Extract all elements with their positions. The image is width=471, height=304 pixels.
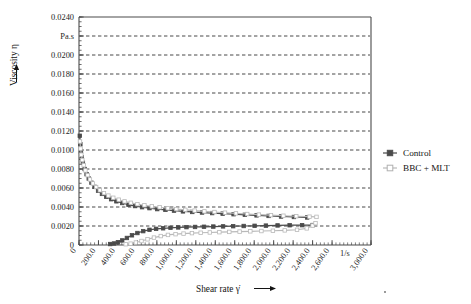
data-point-marker	[78, 140, 82, 144]
data-point-marker	[174, 232, 178, 236]
x-axis-title: Shear rate γ̇	[196, 284, 241, 294]
data-point-marker	[234, 212, 238, 216]
data-point-marker	[166, 233, 170, 237]
data-point-marker	[295, 214, 299, 218]
data-point-marker	[212, 225, 216, 229]
data-point-marker	[125, 236, 129, 240]
y-tick-label: 0.0160	[51, 89, 74, 98]
data-point-marker	[124, 242, 128, 246]
data-point-marker	[129, 242, 133, 246]
y-tick-label: 0.0080	[51, 165, 74, 174]
data-point-marker	[116, 241, 120, 245]
y-tick-label: 0.0200	[51, 51, 74, 60]
y-tick-label: 0.0180	[51, 70, 74, 79]
data-point-marker	[190, 231, 194, 235]
data-point-marker	[152, 236, 156, 240]
data-point-marker	[108, 242, 112, 246]
data-point-marker	[203, 210, 207, 214]
y-tick-label: 0.0120	[51, 127, 74, 136]
y-tick-label: 0.0040	[51, 203, 74, 212]
y-tick-label: Pa.s	[60, 32, 74, 41]
data-point-marker	[161, 227, 165, 231]
data-point-marker	[81, 158, 85, 162]
data-point-marker	[148, 228, 152, 232]
legend-label-bbc-mlt: BBC + MLT	[403, 163, 450, 173]
data-point-marker	[260, 229, 264, 233]
data-point-marker	[136, 202, 140, 206]
data-point-marker	[218, 230, 222, 234]
data-point-marker	[158, 206, 162, 210]
data-point-marker	[91, 182, 95, 186]
data-point-marker	[308, 215, 312, 219]
data-point-marker	[112, 196, 116, 200]
data-point-marker	[94, 185, 98, 189]
data-point-marker	[80, 153, 84, 157]
data-point-marker	[185, 225, 189, 229]
data-point-marker	[238, 230, 242, 234]
y-axis-title: Viscosity η	[9, 44, 19, 86]
data-point-marker	[134, 241, 138, 245]
data-point-marker	[202, 225, 206, 229]
data-point-marker	[177, 226, 181, 230]
data-point-marker	[175, 207, 179, 211]
data-point-marker	[314, 221, 318, 225]
data-point-marker	[231, 224, 235, 228]
x-axis-unit-label: 1/s	[340, 249, 350, 258]
data-point-marker	[140, 239, 144, 243]
data-point-marker	[130, 234, 134, 238]
page-dot-mark	[384, 291, 386, 293]
data-point-marker	[223, 211, 227, 215]
data-point-marker	[169, 226, 173, 230]
data-point-marker	[193, 225, 197, 229]
data-point-marker	[166, 206, 170, 210]
data-point-marker	[86, 173, 90, 177]
data-point-marker	[245, 212, 249, 216]
viscosity-shear-rate-chart: 00.00200.00400.00600.00800.01000.01200.0…	[0, 0, 471, 304]
data-point-marker	[300, 223, 304, 227]
y-tick-label: 0.0060	[51, 184, 74, 193]
data-point-marker	[117, 198, 121, 202]
data-point-marker	[120, 239, 124, 243]
data-point-marker	[98, 189, 102, 193]
data-point-marker	[146, 238, 150, 242]
data-point-marker	[182, 232, 186, 236]
data-point-marker	[199, 231, 203, 235]
data-point-marker	[208, 231, 212, 235]
legend-marker-control	[387, 150, 393, 156]
data-point-marker	[288, 223, 292, 227]
data-point-marker	[264, 224, 268, 228]
data-point-marker	[184, 208, 188, 212]
y-axis-title-group: Viscosity η	[9, 44, 20, 86]
data-point-marker	[271, 229, 275, 233]
data-point-marker	[102, 191, 106, 195]
data-point-marker	[257, 213, 261, 217]
data-point-marker	[154, 227, 158, 231]
data-point-marker	[112, 242, 116, 246]
data-point-marker	[305, 227, 309, 231]
data-point-marker	[150, 205, 154, 209]
data-point-marker	[213, 210, 217, 214]
data-point-marker	[221, 225, 225, 229]
data-point-marker	[249, 230, 253, 234]
data-point-marker	[88, 178, 92, 182]
chart-page: 00.00200.00400.00600.00800.01000.01200.0…	[0, 0, 471, 304]
data-point-marker	[228, 230, 232, 234]
y-tick-label: 0.0140	[51, 108, 74, 117]
legend-label-control: Control	[403, 148, 432, 158]
data-point-marker	[269, 213, 273, 217]
data-point-marker	[107, 194, 111, 198]
data-point-marker	[143, 204, 147, 208]
data-point-marker	[123, 200, 127, 204]
y-tick-label: 0.0020	[51, 222, 74, 231]
legend-marker-bbc-mlt	[387, 165, 393, 171]
data-point-marker	[295, 228, 299, 232]
data-point-marker	[82, 163, 86, 167]
data-point-marker	[141, 229, 145, 233]
data-point-marker	[79, 147, 83, 151]
y-tick-label: 0.0100	[51, 146, 74, 155]
data-point-marker	[315, 215, 319, 219]
data-point-marker	[129, 201, 133, 205]
data-point-marker	[282, 214, 286, 218]
data-point-marker	[283, 229, 287, 233]
data-point-marker	[78, 134, 82, 138]
